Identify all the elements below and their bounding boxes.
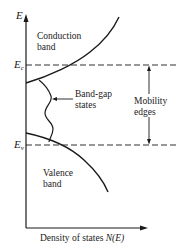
ec-label-sub: c	[21, 64, 24, 72]
ev-label: Ev	[14, 138, 24, 152]
density-axis-label: Density of states N(E)	[40, 233, 124, 244]
ec-label: Ec	[14, 58, 24, 72]
density-axis-label-math: N(E)	[106, 233, 124, 243]
band-gap-label-line1: Band-gap	[75, 89, 112, 100]
ec-label-main: E	[14, 58, 21, 70]
mobility-edges-label: Mobility edges	[134, 96, 167, 117]
density-axis-arrow-icon	[140, 226, 148, 231]
mobility-arrow-down-icon	[147, 139, 151, 145]
valence-band-label: Valence band	[43, 168, 73, 189]
mobility-label-line1: Mobility	[134, 96, 167, 107]
conduction-band-label: Conduction band	[37, 31, 81, 52]
band-diagram-canvas	[0, 0, 187, 248]
band-gap-states-label: Band-gap states	[75, 89, 112, 110]
energy-axis-label: E	[16, 9, 23, 21]
conduction-band-label-line2: band	[37, 42, 81, 53]
valence-band-label-line1: Valence	[43, 168, 73, 179]
valence-band-label-line2: band	[43, 179, 73, 190]
band-gap-states-curve	[39, 80, 53, 142]
density-axis-label-text: Density of states	[40, 233, 106, 243]
mobility-arrow-up-icon	[147, 66, 151, 72]
band-gap-label-line2: states	[75, 100, 112, 111]
ev-label-sub: v	[21, 144, 24, 152]
energy-axis-arrow-icon	[24, 14, 29, 22]
ev-label-main: E	[14, 138, 21, 150]
band-gap-pointer-arrow-icon	[52, 97, 57, 101]
conduction-band-label-line1: Conduction	[37, 31, 81, 42]
mobility-label-line2: edges	[134, 107, 167, 118]
